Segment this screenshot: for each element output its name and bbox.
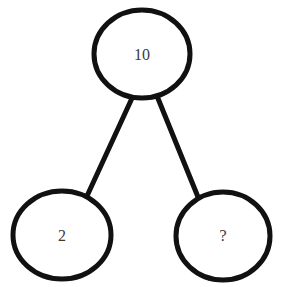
- edge-whole-to-right-part: [157, 96, 198, 197]
- node-left-part-label: 2: [58, 227, 66, 244]
- edge-whole-to-left-part: [87, 96, 133, 196]
- node-whole-label: 10: [134, 46, 150, 63]
- node-right-part-label: ?: [219, 227, 226, 244]
- number-bond-diagram: 10 2 ?: [0, 0, 284, 287]
- diagram-canvas: 10 2 ?: [0, 0, 284, 287]
